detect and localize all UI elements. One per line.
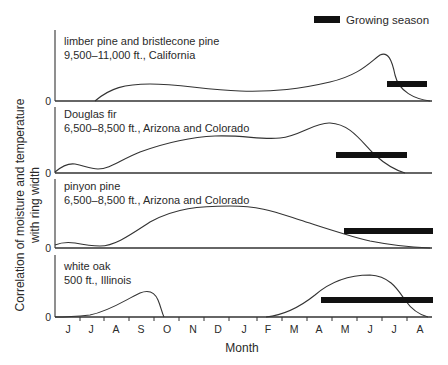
x-tick-label: J [367, 323, 372, 335]
x-axis-title: Month [225, 341, 258, 355]
panel-3-growing-season-bar [344, 228, 433, 234]
panel-1-zero-label: 0 [45, 95, 51, 107]
tree-ring-correlation-chart: Growing season Correlation of moisture a… [0, 0, 448, 365]
panel-4-growing-season-bar [321, 297, 433, 303]
panel-3-title: pinyon pine [64, 180, 120, 192]
x-tick-label: J [65, 323, 70, 335]
x-tick-label: J [88, 323, 93, 335]
panel-4-zero-label: 0 [45, 311, 51, 323]
panel-2-title: Douglas fir [64, 108, 117, 120]
x-tick-label: S [137, 323, 144, 335]
y-axis-title-line2: with ring width [28, 167, 42, 244]
x-tick-label: M [290, 323, 299, 335]
x-tick-label: J [241, 323, 246, 335]
x-tick-label: A [112, 323, 119, 335]
panel-white-oak: 0 white oak 500 ft., Illinois [45, 255, 433, 323]
legend-growing-season-label: Growing season [346, 14, 429, 26]
panel-2-growing-season-bar [336, 152, 407, 158]
panel-1-subtitle: 9,500–11,000 ft., California [64, 49, 196, 61]
panel-2-zero-label: 0 [45, 167, 51, 179]
x-tick-label: J [391, 323, 396, 335]
legend-growing-season-swatch [314, 16, 340, 23]
panel-4-subtitle: 500 ft., Illinois [64, 274, 132, 286]
x-tick-label: N [189, 323, 197, 335]
panel-4-curve-spring [266, 275, 428, 317]
x-axis: J J A S O N D J F M A M J J A Month [65, 317, 423, 355]
panel-3-subtitle: 6,500–8,500 ft., Arizona and Colorado [64, 194, 249, 206]
x-tick-label: A [315, 323, 322, 335]
panel-3-curve [55, 206, 430, 248]
panel-3-zero-label: 0 [45, 242, 51, 254]
x-tick-label: F [265, 323, 271, 335]
panel-4-curve-autumn [55, 291, 164, 317]
legend: Growing season [314, 14, 429, 26]
panel-1-title: limber pine and bristlecone pine [64, 35, 219, 47]
panel-4-title: white oak [63, 260, 111, 272]
x-tick-label: A [416, 323, 423, 335]
panel-1-curve [95, 54, 430, 101]
panel-1-growing-season-bar [387, 81, 427, 87]
y-axis-title: Correlation of moisture and temperature … [13, 98, 42, 311]
y-axis-title-line1: Correlation of moisture and temperature [13, 98, 27, 311]
x-tick-label: O [163, 323, 171, 335]
x-tick-label: M [341, 323, 350, 335]
panel-limber-bristlecone-pine: 0 limber pine and bristlecone pine 9,500… [45, 30, 432, 107]
panel-pinyon-pine: 0 pinyon pine 6,500–8,500 ft., Arizona a… [45, 179, 433, 254]
panel-douglas-fir: 0 Douglas fir 6,500–8,500 ft., Arizona a… [45, 107, 432, 179]
x-tick-label: D [214, 323, 222, 335]
panel-2-subtitle: 6,500–8,500 ft., Arizona and Colorado [64, 122, 249, 134]
